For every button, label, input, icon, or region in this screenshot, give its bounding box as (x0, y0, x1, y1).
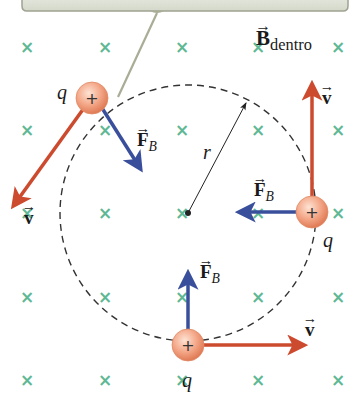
field-into-page-x-icon: × (331, 203, 345, 223)
velocity-label-top-left: v (24, 208, 34, 227)
field-into-page-x-icon: × (175, 120, 189, 140)
radius-indicator (185, 103, 246, 216)
plus-sign: + (85, 89, 98, 108)
charge-label-bottom: q (182, 370, 192, 390)
charge-label-top-left: q (57, 82, 67, 102)
force-label-top-left: FB (137, 130, 157, 153)
field-into-page-x-icon: × (98, 370, 112, 390)
diagram-canvas: ××××××××××××××××××××××××× + + + (0, 0, 363, 404)
field-into-page-x-icon: × (98, 203, 112, 223)
field-into-page-x-icon: × (20, 120, 34, 140)
plus-sign: + (305, 203, 318, 222)
field-into-page-x-icon: × (251, 370, 265, 390)
force-arrows (102, 108, 300, 333)
charge-label-right: q (323, 230, 333, 250)
field-into-page-x-icon: × (331, 287, 345, 307)
field-into-page-x-icon: × (331, 120, 345, 140)
force-label-right: FB (254, 180, 274, 203)
center-dot (185, 210, 191, 216)
field-into-page-x-icon: × (175, 37, 189, 57)
field-into-page-x-icon: × (251, 287, 265, 307)
velocity-label-bottom: v (305, 320, 315, 339)
plus-sign: + (181, 336, 194, 355)
field-into-page-x-icon: × (20, 287, 34, 307)
support-rod (118, 13, 157, 97)
force-label-bottom: FB (200, 262, 220, 285)
charge-bottom: + (172, 329, 204, 361)
velocity-arrows (14, 85, 312, 345)
radius-label: r (203, 142, 211, 162)
velocity-label-right: v (322, 88, 332, 107)
field-into-page-x-icon: × (251, 120, 265, 140)
field-into-page-x-icon: × (331, 370, 345, 390)
support-bar (22, 0, 348, 13)
field-label: Bdentro (256, 28, 312, 53)
field-into-page-x-icon: × (331, 37, 345, 57)
field-into-page-x-icon: × (20, 37, 34, 57)
field-into-page-x-icon: × (20, 370, 34, 390)
field-into-page-x-icon: × (98, 287, 112, 307)
charge-top-left: + (76, 82, 108, 114)
field-into-page-x-icon: × (98, 37, 112, 57)
charge-right: + (296, 196, 328, 228)
